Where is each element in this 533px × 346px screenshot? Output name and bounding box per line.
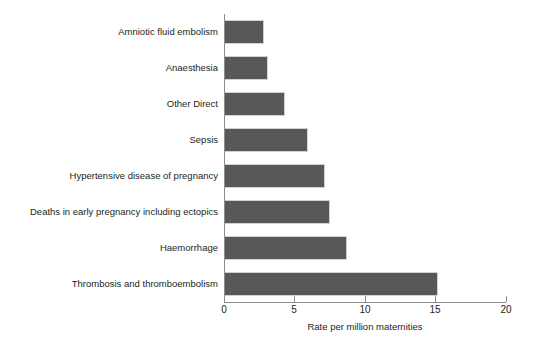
bar-sepsis[interactable]	[224, 128, 308, 152]
bar-category-label: Haemorrhage	[160, 242, 218, 254]
plot-area: Amniotic fluid embolism Anaesthesia Othe…	[224, 14, 506, 302]
x-axis-title: Rate per million maternities	[224, 321, 506, 333]
bar-deaths-in-early-pregnancy-including-ectopics[interactable]	[224, 200, 330, 224]
x-tick-label: 20	[486, 304, 526, 316]
x-tick-label: 15	[415, 304, 455, 316]
bar-row[interactable]: Deaths in early pregnancy including ecto…	[224, 194, 506, 230]
x-tick-label: 10	[345, 304, 385, 316]
x-tick-mark	[365, 296, 366, 302]
bar-row[interactable]: Other Direct	[224, 86, 506, 122]
bar-row[interactable]: Amniotic fluid embolism	[224, 14, 506, 50]
bar-anaesthesia[interactable]	[224, 56, 268, 80]
bar-hypertensive-disease-of-pregnancy[interactable]	[224, 164, 325, 188]
bar-category-label: Thrombosis and thromboembolism	[72, 278, 218, 290]
bar-haemorrhage[interactable]	[224, 236, 347, 260]
bar-thrombosis-and-thromboembolism[interactable]	[224, 272, 438, 296]
bar-row[interactable]: Anaesthesia	[224, 50, 506, 86]
x-tick-mark	[294, 296, 295, 302]
bar-row[interactable]: Sepsis	[224, 122, 506, 158]
bar-other-direct[interactable]	[224, 92, 285, 116]
bar-category-label: Anaesthesia	[166, 62, 218, 74]
bar-row[interactable]: Hypertensive disease of pregnancy	[224, 158, 506, 194]
value-axis-line	[224, 302, 506, 303]
bar-amniotic-fluid-embolism[interactable]	[224, 20, 264, 44]
bar-category-label: Hypertensive disease of pregnancy	[70, 170, 218, 182]
bar-category-label: Amniotic fluid embolism	[118, 26, 218, 38]
bar-category-label: Deaths in early pregnancy including ecto…	[30, 206, 218, 218]
bar-category-label: Other Direct	[167, 98, 218, 110]
x-tick-mark	[224, 296, 225, 302]
x-tick-label: 5	[274, 304, 314, 316]
x-tick-label: 0	[204, 304, 244, 316]
x-tick-mark	[435, 296, 436, 302]
bar-category-label: Sepsis	[189, 134, 218, 146]
category-axis-line	[224, 14, 225, 302]
x-tick-mark	[506, 296, 507, 302]
bar-chart: Amniotic fluid embolism Anaesthesia Othe…	[0, 0, 533, 346]
bar-row[interactable]: Haemorrhage	[224, 230, 506, 266]
